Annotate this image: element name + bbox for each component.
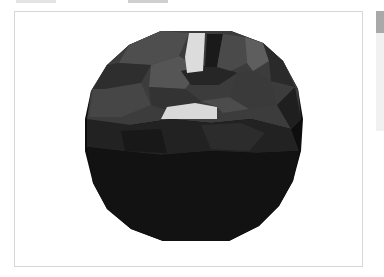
tab-1[interactable] xyxy=(16,0,56,3)
tab-strip xyxy=(0,0,384,6)
scrollbar[interactable] xyxy=(376,11,384,131)
tab-2[interactable] xyxy=(128,0,168,3)
scrollbar-thumb[interactable] xyxy=(376,11,384,33)
3d-viewport[interactable] xyxy=(14,11,363,267)
mesh-render xyxy=(15,12,362,266)
